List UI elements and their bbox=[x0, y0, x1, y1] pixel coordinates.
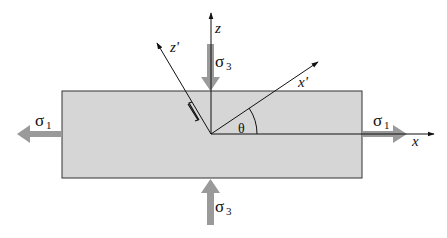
stress-diagram: z z' x' x θ σ 3 σ 3 σ 1 σ 1 bbox=[0, 0, 447, 238]
z-axis-label: z bbox=[214, 20, 221, 36]
sigma1-left-label: σ 1 bbox=[35, 111, 52, 131]
sigma3-top-label: σ 3 bbox=[215, 52, 232, 72]
svg-text:3: 3 bbox=[226, 60, 232, 72]
svg-text:1: 1 bbox=[384, 119, 390, 131]
x-axis-label: x bbox=[411, 133, 419, 149]
svg-text:3: 3 bbox=[226, 205, 232, 217]
sigma1-right-label: σ 1 bbox=[373, 111, 390, 131]
svg-text:σ: σ bbox=[35, 111, 44, 130]
sigma3-bottom-label: σ 3 bbox=[215, 197, 232, 217]
svg-text:σ: σ bbox=[215, 197, 224, 216]
theta-label: θ bbox=[238, 121, 245, 136]
x-prime-axis-label: x' bbox=[297, 74, 309, 90]
svg-text:σ: σ bbox=[215, 52, 224, 71]
svg-text:1: 1 bbox=[46, 119, 52, 131]
svg-text:σ: σ bbox=[373, 111, 382, 130]
z-prime-axis-label: z' bbox=[169, 39, 180, 55]
